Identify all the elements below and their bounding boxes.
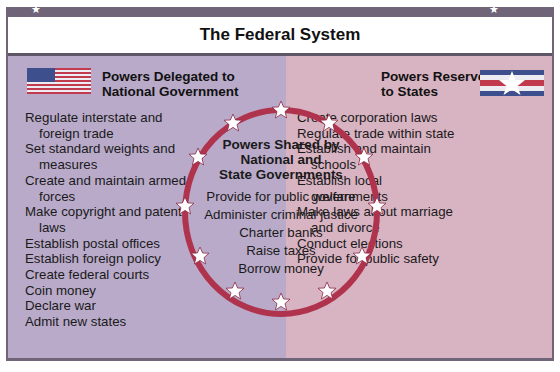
title-band: The Federal System <box>8 17 552 56</box>
list-item: Regulate interstate and foreign trade <box>25 110 187 141</box>
list-item: Create and maintain armed forces <box>25 173 187 204</box>
shared-header-line1: Powers Shared by <box>178 137 384 152</box>
shared-powers: Powers Shared by National and State Gove… <box>178 137 384 278</box>
top-bar: ★ ★ <box>6 7 554 17</box>
list-item: Set standard weights and measures <box>25 141 187 172</box>
national-powers-list: Regulate interstate and foreign trade Se… <box>25 110 187 330</box>
star-icon: ★ <box>489 4 499 15</box>
list-item: Create federal courts <box>25 267 187 283</box>
list-item: Charter banks <box>178 224 384 242</box>
national-header-line1: Powers Delegated to <box>102 69 239 84</box>
list-item: Admit new states <box>25 314 187 330</box>
star-icon: ★ <box>31 4 41 15</box>
list-item: Establish foreign policy <box>25 251 187 267</box>
list-item: Coin money <box>25 283 187 299</box>
state-header-line2: to States <box>381 84 494 99</box>
list-item: Make copyright and patent laws <box>25 204 187 235</box>
shared-header-line3: State Governments <box>178 167 384 182</box>
list-item: Declare war <box>25 298 187 314</box>
state-flag-star-icon <box>480 70 544 96</box>
us-flag-icon <box>27 68 91 94</box>
shared-header-line2: National and <box>178 152 384 167</box>
state-header-line1: Powers Reserved <box>381 69 494 84</box>
shared-powers-list: Provide for public welfare Administer cr… <box>178 188 384 278</box>
list-item: Raise taxes <box>178 242 384 260</box>
list-item: Establish postal offices <box>25 236 187 252</box>
list-item: Administer criminal justice <box>178 206 384 224</box>
list-item: Provide for public welfare <box>178 188 384 206</box>
diagram-title: The Federal System <box>200 25 361 45</box>
list-item: Borrow money <box>178 260 384 278</box>
